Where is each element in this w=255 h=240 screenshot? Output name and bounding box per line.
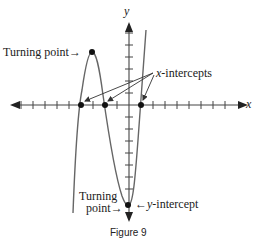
x-intercept-dot-2 [102,102,108,108]
figure-canvas: x y Turnin [0,0,255,240]
y-intercept-dot [125,202,131,208]
turning-point-top-label: Turning point→ [3,45,81,59]
y-intercept-arrow-icon: ← [135,197,147,211]
turning-point-top-dot [89,49,95,55]
y-intercept-text: -intercept [152,197,199,211]
turning-point-bottom-label-line2: point→ [86,201,123,215]
figure-caption: Figure 9 [110,227,147,238]
x-intercept-pointers [85,73,154,101]
x-axis: x [10,97,252,111]
y-axis-down-arrow-icon [125,212,133,222]
x-intercepts-text: -intercepts [161,66,212,80]
y-axis-label: y [123,4,130,18]
polynomial-curve [73,30,146,213]
x-axis-left-arrow-icon [10,101,20,109]
y-axis: y [123,4,133,222]
y-intercept-label: ←y-intercept [135,197,199,211]
x-intercept-dot-3 [138,102,144,108]
y-axis-up-arrow-icon [125,22,133,32]
x-axis-label: x [245,97,252,111]
x-intercept-dot-1 [78,102,84,108]
x-intercepts-label: x-intercepts [155,66,212,80]
